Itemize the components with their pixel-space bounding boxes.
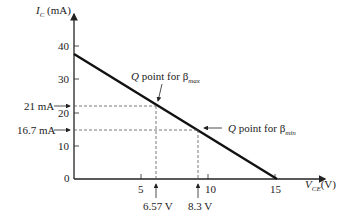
- label-167ma: 16.7 mA: [17, 124, 56, 136]
- y-axis-label: IC (mA): [35, 4, 71, 19]
- label-21ma: 21 mA: [24, 100, 54, 112]
- label-657v: 6.57 V: [143, 200, 173, 212]
- x-tick-5: 5: [138, 183, 144, 195]
- dashed-guides: [74, 106, 198, 179]
- x-tick-10: 10: [205, 183, 217, 195]
- y-ticks: [74, 46, 79, 146]
- y-tick-20: 20: [58, 107, 70, 119]
- x-ticks: [141, 174, 275, 179]
- y-tick-40: 40: [58, 40, 70, 52]
- y-tick-10: 10: [58, 140, 70, 152]
- arrow-q-beta-max: [158, 84, 162, 101]
- label-q-beta-max: Q point for βmax: [131, 70, 201, 85]
- y-tick-0: 0: [64, 172, 70, 184]
- label-q-beta-min: Q point for βmin: [228, 122, 296, 137]
- label-83v: 8.3 V: [188, 200, 212, 212]
- x-axis-label: VCE(V): [305, 178, 336, 193]
- y-tick-30: 30: [58, 73, 70, 85]
- x-tick-15: 15: [270, 183, 282, 195]
- load-line-chart: IC (mA) 40 30 20 10 0 5 10 15 VCE(V) 21 …: [0, 0, 353, 217]
